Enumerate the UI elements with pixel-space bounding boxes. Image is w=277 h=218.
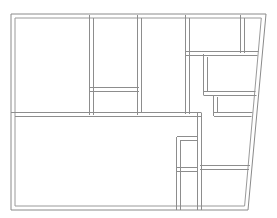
floor-plan-drawing: [0, 0, 277, 218]
